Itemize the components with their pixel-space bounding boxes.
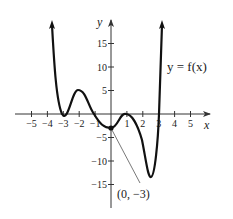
y-tick-label: −10	[91, 156, 107, 167]
x-tick-label: 1	[124, 118, 129, 129]
y-axis-label: y	[96, 15, 103, 29]
x-tick-label: −2	[74, 118, 85, 129]
x-tick-label: −3	[58, 118, 69, 129]
y-tick-label: −5	[96, 132, 107, 143]
y-tick-label: −15	[91, 179, 107, 190]
x-tick-label: −5	[26, 118, 37, 129]
x-tick-label: −4	[42, 118, 53, 129]
y-tick-label: 10	[97, 62, 107, 73]
callout-line	[112, 130, 140, 183]
y-tick-label: 5	[102, 85, 107, 96]
x-tick-label: 5	[188, 118, 193, 129]
function-graph: −5−4−3−2−112345 x 15105−5−10−15 y (0, −3…	[0, 0, 233, 219]
function-curve	[52, 25, 162, 177]
x-axis-label: x	[203, 118, 210, 132]
y-tick-label: 15	[97, 38, 107, 49]
point-marker	[108, 125, 113, 130]
x-tick-label: 4	[172, 118, 177, 129]
x-tick-label: 2	[140, 118, 145, 129]
function-label: y = f(x)	[167, 59, 207, 74]
point-label: (0, −3)	[117, 187, 150, 201]
